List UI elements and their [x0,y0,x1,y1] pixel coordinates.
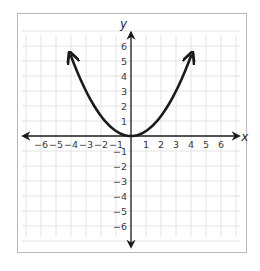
y-tick-label: −1 [113,146,127,157]
y-tick-label: 2 [121,101,127,112]
y-tick-label: −4 [113,191,127,202]
y-tick-label: 6 [121,41,127,52]
y-tick-label: 3 [121,86,127,97]
x-tick-label: 5 [203,139,209,150]
x-tick-label: −4 [64,139,78,150]
x-tick-label: −6 [34,139,48,150]
x-tick-label: 2 [158,139,164,150]
chart-svg: −6−5−4−3−2−1123456654321−1−2−3−4−5−6 x y [0,0,260,271]
x-tick-label: −2 [94,139,108,150]
x-tick-label: 4 [188,139,194,150]
y-tick-label: −5 [113,206,127,217]
x-axis-label: x [240,130,249,144]
x-tick-label: 3 [173,139,179,150]
y-axis-label: y [119,17,128,31]
y-tick-label: −3 [113,176,127,187]
x-tick-label: −5 [49,139,63,150]
y-tick-label: 1 [121,116,127,127]
x-tick-label: 6 [218,139,224,150]
x-tick-label: 1 [143,139,149,150]
x-tick-label: −3 [79,139,93,150]
y-tick-label: −6 [113,221,127,232]
y-tick-label: −2 [113,161,127,172]
y-tick-label: 5 [121,56,127,67]
y-tick-label: 4 [121,71,127,82]
